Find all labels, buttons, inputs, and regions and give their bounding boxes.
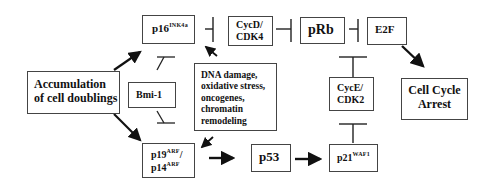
dna-line5: remodeling (201, 116, 276, 127)
cycd-line1: CycD/ (236, 19, 272, 31)
node-p53: p53 (251, 144, 291, 172)
edge-dna-p19 (202, 137, 213, 147)
dna-line3: oncogenes, (201, 93, 276, 104)
p16-label: p16 (152, 22, 169, 34)
node-cycd-cdk4: CycD/ CDK4 (228, 16, 273, 46)
edge-e2f-arrest (402, 46, 423, 66)
edge-bmi1-p16 (157, 57, 164, 70)
dna-line2: oxidative stress, (201, 81, 276, 92)
node-prb: pRb (300, 17, 345, 44)
arrest-line1: Cell Cycle (402, 84, 467, 98)
dna-line4: chromatin (201, 104, 276, 115)
edge-bmi1-p19 (157, 111, 164, 123)
accum-line2: of cell doublings (34, 92, 119, 106)
p19-superscript: ARF (167, 148, 180, 154)
p19-slash: / (180, 149, 183, 160)
cyce-line1: CycE/ (337, 82, 373, 94)
node-bmi1: Bmi-1 (128, 82, 176, 108)
node-dna-damage: DNA damage, oxidative stress, oncogenes,… (194, 63, 277, 131)
p53-label: p53 (259, 149, 279, 164)
p14-label: p14 (151, 162, 167, 173)
cyce-line2: CDK2 (337, 94, 373, 106)
node-p19-p14: p19ARF/ p14ARF (142, 143, 195, 178)
accum-line1: Accumulation (34, 78, 119, 92)
bmi1-label: Bmi-1 (136, 89, 162, 100)
node-cyce-cdk2: CycE/ CDK2 (329, 77, 374, 111)
node-p16: p16INK4a (142, 15, 195, 44)
edge-accum-p19 (114, 114, 140, 140)
arrest-line2: Arrest (402, 98, 467, 112)
p14-superscript: ARF (167, 161, 180, 167)
node-e2f: E2F (367, 17, 407, 45)
prb-label: pRb (308, 22, 334, 37)
edge-dna-p16 (206, 47, 217, 56)
e2f-label: E2F (375, 23, 395, 35)
dna-line1: DNA damage, (201, 70, 276, 81)
cycd-line2: CDK4 (236, 31, 272, 43)
node-cell-cycle-arrest: Cell Cycle Arrest (401, 78, 468, 120)
p21-label: p21 (337, 152, 353, 163)
p19-label: p19 (151, 149, 167, 160)
node-accumulation: Accumulation of cell doublings (27, 71, 120, 114)
edge-accum-p16 (114, 52, 140, 70)
p16-superscript: INK4a (169, 22, 188, 28)
node-p21: p21WAF1 (329, 144, 378, 172)
p21-superscript: WAF1 (353, 151, 371, 157)
